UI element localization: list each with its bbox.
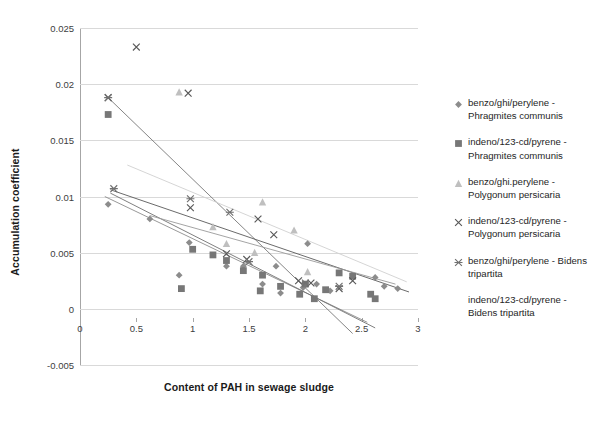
legend-item[interactable]: indeno/123-cd/pyrene - Phragmites commun… xyxy=(452,135,612,161)
gridline xyxy=(80,253,418,254)
triangle-icon xyxy=(452,176,465,189)
gridline xyxy=(80,197,418,198)
y-tick-label: 0.005 xyxy=(28,247,74,258)
x-tick-mark xyxy=(193,318,194,322)
gridline xyxy=(80,84,418,85)
none-icon xyxy=(452,294,465,307)
gridline xyxy=(80,28,418,29)
legend-item[interactable]: indeno/123-cd/pyrene - Bidens tripartita xyxy=(452,293,612,319)
gridline xyxy=(80,309,418,310)
x-tick-label: 1 xyxy=(173,323,213,334)
cross-icon xyxy=(452,215,465,228)
x-tick-label: 2.5 xyxy=(342,323,382,334)
legend-item-label: benzo/ghi/perylene - Phragmites communis xyxy=(468,96,563,122)
x-tick-label: 1.5 xyxy=(229,323,269,334)
asterisk-cross-icon xyxy=(452,255,465,268)
x-tick-mark xyxy=(249,318,250,322)
gridline xyxy=(80,140,418,141)
x-tick-mark xyxy=(362,318,363,322)
x-tick-label: 0 xyxy=(60,323,100,334)
square-icon xyxy=(452,136,465,149)
chart-figure: Accumulation coefficient Content of PAH … xyxy=(0,0,614,424)
x-axis-tick-labels: 00.511.522.53 xyxy=(80,318,419,348)
plot-area xyxy=(80,28,418,365)
x-axis-title: Content of PAH in sewage sludge xyxy=(80,378,418,396)
y-axis-tick-labels: 0.0250.020.0150.010.0050-0.005 xyxy=(22,28,74,365)
legend-item-label: benzo/ghi.perylene - Polygonum persicari… xyxy=(468,175,560,201)
y-tick-label: 0.01 xyxy=(28,191,74,202)
y-tick-label: 0.025 xyxy=(28,23,74,34)
x-tick-label: 3 xyxy=(398,323,438,334)
chart-legend: benzo/ghi/perylene - Phragmites communis… xyxy=(452,96,612,332)
legend-item[interactable]: benzo/ghi/perylene - Bidens tripartita xyxy=(452,254,612,280)
legend-item[interactable]: benzo/ghi.perylene - Polygonum persicari… xyxy=(452,175,612,201)
y-tick-label: 0 xyxy=(28,303,74,314)
legend-item-label: indeno/123-cd/pyrene - Bidens tripartita xyxy=(468,293,567,319)
x-tick-label: 0.5 xyxy=(116,323,156,334)
y-tick-label: 0.015 xyxy=(28,135,74,146)
legend-item-label: benzo/ghi/perylene - Bidens tripartita xyxy=(468,254,587,280)
legend-item-label: indeno/123-cd/pyrene - Polygonum persica… xyxy=(468,214,567,240)
y-tick-label: -0.005 xyxy=(28,360,74,371)
x-tick-mark xyxy=(80,318,81,322)
x-tick-mark xyxy=(418,318,419,322)
x-tick-label: 2 xyxy=(285,323,325,334)
gridline xyxy=(80,365,418,366)
legend-item-label: indeno/123-cd/pyrene - Phragmites commun… xyxy=(468,135,567,161)
y-tick-label: 0.02 xyxy=(28,79,74,90)
diamond-icon xyxy=(452,97,465,110)
legend-item[interactable]: benzo/ghi/perylene - Phragmites communis xyxy=(452,96,612,122)
x-tick-mark xyxy=(136,318,137,322)
legend-item[interactable]: indeno/123-cd/pyrene - Polygonum persica… xyxy=(452,214,612,240)
x-tick-mark xyxy=(305,318,306,322)
